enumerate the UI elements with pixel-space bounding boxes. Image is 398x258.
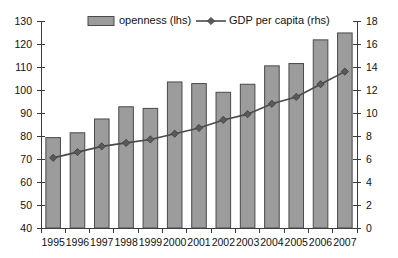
legend-diamond-marker — [207, 17, 214, 24]
right-axis-tick-label: 10 — [366, 107, 378, 119]
combo-chart: openness (lhs) GDP per capita (rhs) 4050… — [0, 0, 398, 258]
left-axis-tick-label: 90 — [20, 107, 32, 119]
x-axis-tick-label: 1999 — [139, 236, 163, 248]
bar — [338, 33, 353, 228]
bar — [216, 92, 231, 228]
right-axis: 024681012141618 — [353, 15, 378, 234]
right-axis-tick-label: 16 — [366, 38, 378, 50]
bar — [167, 82, 182, 228]
x-axis-tick-label: 1995 — [41, 236, 65, 248]
right-axis-tick-label: 18 — [366, 15, 378, 27]
bar — [143, 108, 158, 228]
x-axis-tick-label: 2000 — [163, 236, 187, 248]
left-axis: 405060708090100110120130 — [14, 15, 45, 234]
left-axis-tick-label: 50 — [20, 199, 32, 211]
right-axis-tick-label: 6 — [366, 153, 372, 165]
left-axis-tick-label: 70 — [20, 153, 32, 165]
x-axis-tick-label: 1997 — [90, 236, 114, 248]
legend: openness (lhs) GDP per capita (rhs) — [88, 14, 330, 26]
left-axis-tick-label: 120 — [14, 38, 32, 50]
left-axis-tick-label: 100 — [14, 84, 32, 96]
right-axis-tick-label: 8 — [366, 130, 372, 142]
right-axis-tick-label: 0 — [366, 222, 372, 234]
x-axis-tick-label: 1998 — [114, 236, 138, 248]
x-axis-tick-label: 2005 — [285, 236, 309, 248]
x-axis-tick-label: 2002 — [212, 236, 236, 248]
x-axis-tick-label: 2003 — [236, 236, 260, 248]
legend-swatch-openness — [88, 17, 114, 26]
bar — [46, 138, 61, 228]
x-axis-tick-label: 2001 — [187, 236, 211, 248]
bar — [265, 66, 280, 228]
x-axis-tick-label: 2006 — [309, 236, 333, 248]
legend-label-openness: openness (lhs) — [119, 14, 191, 26]
x-axis-tick-label: 1996 — [66, 236, 90, 248]
left-axis-tick-label: 130 — [14, 15, 32, 27]
x-axis-tick-label: 2004 — [260, 236, 284, 248]
right-axis-tick-label: 4 — [366, 176, 372, 188]
bar — [94, 119, 109, 228]
x-axis: 1995199619971998199920002001200220032004… — [41, 228, 357, 248]
left-axis-tick-label: 40 — [20, 222, 32, 234]
bar — [240, 84, 255, 228]
bar — [289, 64, 304, 228]
left-axis-tick-label: 60 — [20, 176, 32, 188]
bar — [313, 40, 328, 228]
right-axis-tick-label: 12 — [366, 84, 378, 96]
right-axis-tick-label: 2 — [366, 199, 372, 211]
x-axis-tick-label: 2007 — [333, 236, 357, 248]
bar — [192, 84, 207, 228]
left-axis-tick-label: 110 — [15, 61, 32, 73]
bar — [70, 133, 85, 228]
legend-label-gdp-per-capita: GDP per capita (rhs) — [229, 14, 330, 26]
left-axis-tick-label: 80 — [20, 130, 32, 142]
right-axis-tick-label: 14 — [366, 61, 378, 73]
chart-container: openness (lhs) GDP per capita (rhs) 4050… — [0, 0, 398, 258]
bar — [119, 107, 134, 228]
legend-marker-gdp — [196, 17, 226, 24]
